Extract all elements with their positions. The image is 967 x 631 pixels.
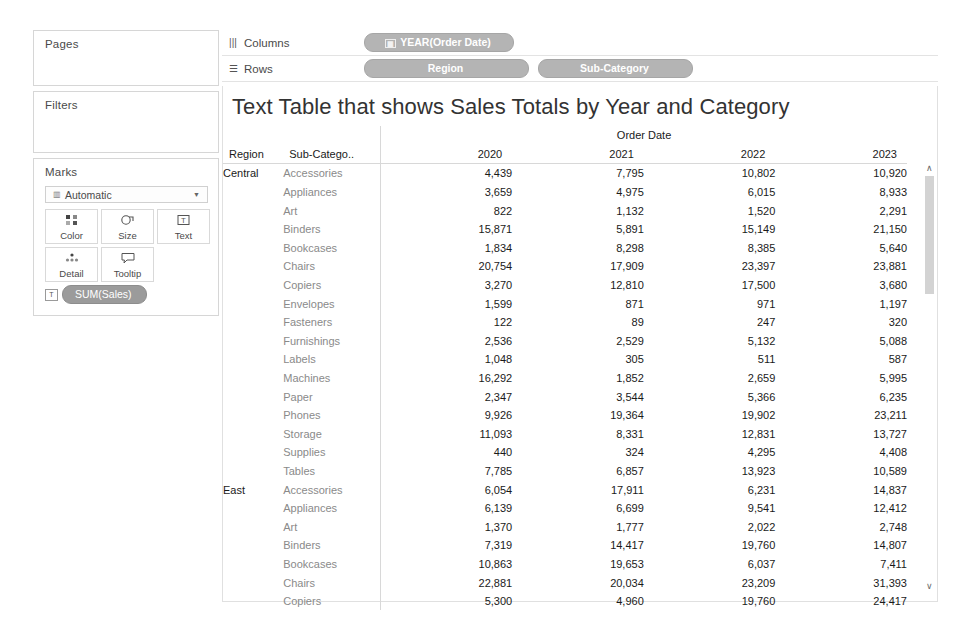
header-year-2021[interactable]: 2021 bbox=[512, 145, 644, 164]
cell-sub-category: Accessories bbox=[283, 480, 380, 499]
header-sub-category[interactable]: Sub-Catego.. bbox=[283, 145, 380, 164]
cell-value-2022: 23,397 bbox=[644, 257, 776, 276]
pill-region[interactable]: Region bbox=[364, 59, 529, 78]
cell-value-2022: 971 bbox=[644, 294, 776, 313]
cell-sub-category: Binders bbox=[283, 536, 380, 555]
cell-value-2022: 23,209 bbox=[644, 573, 776, 592]
spacer-cell bbox=[223, 126, 283, 145]
marks-tooltip-button[interactable]: Tooltip bbox=[101, 247, 154, 282]
header-year-2020[interactable]: 2020 bbox=[381, 145, 513, 164]
cell-value-2020: 822 bbox=[381, 201, 513, 220]
cell-value-2020: 5,300 bbox=[381, 592, 513, 611]
cell-region bbox=[223, 592, 283, 611]
scrollbar-thumb[interactable] bbox=[925, 176, 934, 294]
cell-sub-category: Paper bbox=[283, 387, 380, 406]
cell-region bbox=[223, 406, 283, 425]
table-row: Fasteners12289247320 bbox=[223, 313, 907, 332]
cell-region bbox=[223, 220, 283, 239]
header-year-2022[interactable]: 2022 bbox=[644, 145, 776, 164]
table-row: CentralAccessories4,4397,79510,80210,920 bbox=[223, 164, 907, 183]
cell-value-2021: 12,810 bbox=[512, 276, 644, 295]
pill-sub-category[interactable]: Sub-Category bbox=[538, 59, 693, 78]
table-row: Labels1,048305511587 bbox=[223, 350, 907, 369]
table-row: Storage11,0938,33112,83113,727 bbox=[223, 425, 907, 444]
calendar-icon: ▦ bbox=[385, 39, 396, 48]
pill-year-order-date[interactable]: ▦YEAR(Order Date) bbox=[364, 33, 514, 52]
cell-region bbox=[223, 183, 283, 202]
marks-detail-label: Detail bbox=[59, 268, 83, 279]
mark-type-dropdown[interactable]: ▥ Automatic ▼ bbox=[45, 186, 208, 203]
cell-value-2023: 10,589 bbox=[775, 462, 907, 481]
cell-sub-category: Bookcases bbox=[283, 555, 380, 574]
marks-detail-button[interactable]: Detail bbox=[45, 247, 98, 282]
cell-sub-category: Art bbox=[283, 517, 380, 536]
cell-region bbox=[223, 332, 283, 351]
cell-value-2022: 19,760 bbox=[644, 536, 776, 555]
cell-sub-category: Envelopes bbox=[283, 294, 380, 313]
cell-value-2021: 324 bbox=[512, 443, 644, 462]
cell-value-2023: 587 bbox=[775, 350, 907, 369]
pages-card[interactable]: Pages bbox=[33, 30, 219, 86]
table-row: Envelopes1,5998719711,197 bbox=[223, 294, 907, 313]
cell-value-2021: 6,699 bbox=[512, 499, 644, 518]
marks-color-button[interactable]: Color bbox=[45, 209, 98, 244]
cell-value-2021: 1,132 bbox=[512, 201, 644, 220]
cell-value-2021: 1,777 bbox=[512, 517, 644, 536]
scrollbar-track[interactable] bbox=[925, 174, 934, 580]
cell-sub-category: Copiers bbox=[283, 276, 380, 295]
cell-value-2021: 17,911 bbox=[512, 480, 644, 499]
filters-title: Filters bbox=[34, 92, 218, 111]
scroll-up-arrow[interactable]: ∧ bbox=[926, 162, 933, 174]
cell-value-2021: 2,529 bbox=[512, 332, 644, 351]
cell-value-2022: 5,132 bbox=[644, 332, 776, 351]
header-year-2023[interactable]: 2023 bbox=[775, 145, 907, 164]
marks-size-label: Size bbox=[118, 230, 136, 241]
cell-value-2023: 14,807 bbox=[775, 536, 907, 555]
cell-region bbox=[223, 425, 283, 444]
marks-size-button[interactable]: Size bbox=[101, 209, 154, 244]
marks-buttons-row-1: Color Size T Text bbox=[45, 209, 210, 244]
cell-value-2022: 19,902 bbox=[644, 406, 776, 425]
marks-pill-sum-sales[interactable]: SUM(Sales) bbox=[62, 285, 147, 304]
cell-value-2021: 17,909 bbox=[512, 257, 644, 276]
cell-region: Central bbox=[223, 164, 283, 183]
marks-text-button[interactable]: T Text bbox=[157, 209, 210, 244]
vertical-scrollbar[interactable]: ∧ ∨ bbox=[923, 162, 936, 592]
table-row: Bookcases10,86319,6536,0377,411 bbox=[223, 555, 907, 574]
cell-sub-category: Chairs bbox=[283, 257, 380, 276]
rows-icon: ☰ bbox=[226, 63, 240, 74]
cell-region bbox=[223, 573, 283, 592]
cell-value-2020: 11,093 bbox=[381, 425, 513, 444]
cell-sub-category: Furnishings bbox=[283, 332, 380, 351]
cell-value-2020: 2,347 bbox=[381, 387, 513, 406]
columns-shelf[interactable]: ||| Columns ▦YEAR(Order Date) bbox=[222, 30, 938, 56]
table-row: Phones9,92619,36419,90223,211 bbox=[223, 406, 907, 425]
marks-buttons-row-2: Detail Tooltip bbox=[45, 247, 154, 282]
table-row: EastAccessories6,05417,9116,23114,837 bbox=[223, 480, 907, 499]
table-row: Copiers5,3004,96019,76024,417 bbox=[223, 592, 907, 611]
cell-region bbox=[223, 499, 283, 518]
rows-shelf[interactable]: ☰ Rows Region Sub-Category bbox=[222, 56, 938, 82]
cell-region bbox=[223, 313, 283, 332]
filters-card[interactable]: Filters bbox=[33, 91, 219, 153]
cell-value-2022: 10,802 bbox=[644, 164, 776, 183]
cell-value-2023: 31,393 bbox=[775, 573, 907, 592]
cell-region bbox=[223, 201, 283, 220]
table-row: Binders15,8715,89115,14921,150 bbox=[223, 220, 907, 239]
mark-type-value: Automatic bbox=[65, 189, 112, 201]
cell-value-2020: 2,536 bbox=[381, 332, 513, 351]
cell-value-2023: 13,727 bbox=[775, 425, 907, 444]
table-group-header-row: Order Date bbox=[223, 126, 907, 145]
cell-value-2020: 1,370 bbox=[381, 517, 513, 536]
page-title: Text Table that shows Sales Totals by Ye… bbox=[223, 86, 937, 126]
cell-value-2021: 14,417 bbox=[512, 536, 644, 555]
cell-value-2021: 19,653 bbox=[512, 555, 644, 574]
cell-value-2023: 5,640 bbox=[775, 239, 907, 258]
cell-value-2022: 511 bbox=[644, 350, 776, 369]
cell-value-2020: 122 bbox=[381, 313, 513, 332]
rows-shelf-label: Rows bbox=[244, 63, 364, 75]
columns-shelf-label: Columns bbox=[244, 37, 364, 49]
scroll-down-arrow[interactable]: ∨ bbox=[926, 580, 933, 592]
cell-sub-category: Binders bbox=[283, 220, 380, 239]
header-region[interactable]: Region bbox=[223, 145, 283, 164]
